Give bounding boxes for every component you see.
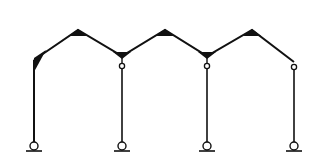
- haunch-ridge-1: [69, 29, 87, 36]
- hinge-icon: [119, 63, 124, 68]
- pin-support-icon: [118, 142, 126, 150]
- hinge-icon: [204, 63, 209, 68]
- frame-diagram: [0, 0, 328, 163]
- support-2: [114, 142, 130, 151]
- hinge-icon: [291, 64, 296, 69]
- haunch-ridge-2: [156, 29, 174, 36]
- support-3: [199, 142, 215, 151]
- pin-support-icon: [290, 142, 298, 150]
- haunch-valley-1: [113, 52, 131, 59]
- support-4: [286, 142, 302, 151]
- haunch-valley-2: [198, 52, 216, 59]
- pin-support-icon: [203, 142, 211, 150]
- frame-diagram-canvas: [0, 0, 328, 163]
- pin-support-icon: [30, 142, 38, 150]
- support-1: [26, 142, 42, 151]
